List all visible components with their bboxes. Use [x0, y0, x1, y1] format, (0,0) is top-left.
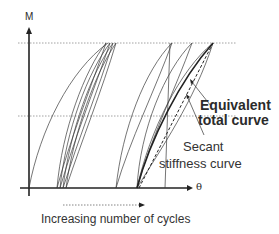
- secant-label-line1: Secant: [183, 139, 223, 154]
- equivalent-label-line2: total curve: [198, 112, 269, 128]
- cycles-arrow-icon: [139, 203, 145, 208]
- x-axis-label: θ: [196, 181, 202, 192]
- first-cycle-curves: [29, 43, 116, 188]
- y-axis-label: M: [25, 11, 33, 22]
- x-axis-arrow-icon: [187, 185, 193, 191]
- secant-leader-arrow-icon: [186, 94, 190, 99]
- secant-label-line2: stiffness curve: [159, 156, 242, 171]
- y-axis-arrow-icon: [26, 27, 32, 34]
- equivalent-label-line1: Equivalent: [200, 97, 271, 113]
- cycles-caption: Increasing number of cycles: [41, 212, 190, 226]
